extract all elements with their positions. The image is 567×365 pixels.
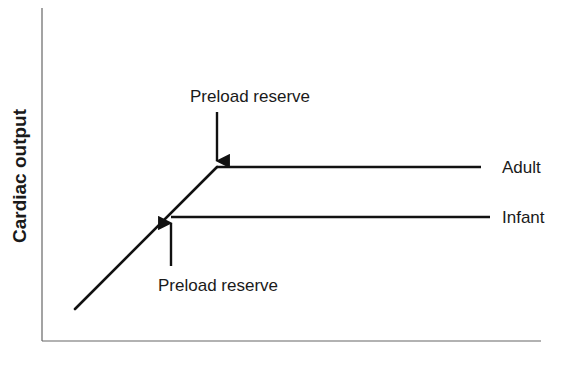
chart: Cardiac output Adult Infant Preload rese…: [0, 0, 567, 365]
infant-label: Infant: [502, 208, 545, 227]
y-axis-label: Cardiac output: [9, 108, 30, 243]
preload-reserve-adult-label: Preload reserve: [190, 87, 310, 106]
preload-reserve-infant-label: Preload reserve: [158, 276, 278, 295]
adult-label: Adult: [502, 158, 541, 177]
